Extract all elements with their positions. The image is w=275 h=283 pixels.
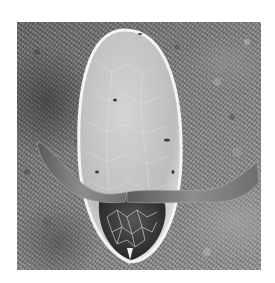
- sem-micrograph: [17, 22, 261, 270]
- egg-illustration: [17, 22, 261, 270]
